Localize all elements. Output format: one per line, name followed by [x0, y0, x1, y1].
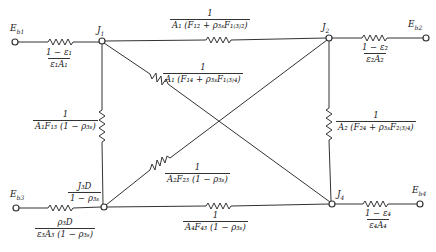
node-j4 — [329, 201, 335, 207]
resistor-j2-j4 — [326, 108, 332, 140]
resistance-eb3-j3-top: J₃D 1 − ρ₃ₛ — [68, 182, 101, 202]
node-eb2 — [423, 35, 429, 41]
resistor-j2-eb2 — [362, 35, 387, 41]
resistance-j2-eb2: 1 − ε₂ ε₂A₂ — [360, 43, 390, 63]
resistance-j3-j4: 1 A₄F₄₃ (1 − ρ₃ₛ) — [183, 211, 248, 231]
label-eb3: Eb3 — [10, 190, 24, 201]
resistance-j4-eb4: 1 − ε₄ ε₄A₄ — [363, 209, 393, 229]
resistor-j1-j2 — [206, 37, 231, 43]
label-eb2: Eb2 — [408, 20, 422, 31]
resistance-eb3-j3-bottom: ρ₃D ε₃A₃ (1 − ρ₃ₛ) — [35, 218, 95, 238]
node-eb1 — [12, 39, 18, 45]
node-j3 — [101, 204, 107, 210]
resistor-j1-j3 — [99, 110, 105, 142]
resistance-eb1-j1: 1 − ε₁ ε₁A₁ — [44, 48, 74, 68]
label-j2: J2 — [322, 23, 329, 34]
resistance-j1-j2: 1 A₁ (F₁₂ + ρ₃ₛF₁₍₃₎₂) — [170, 9, 250, 29]
resistance-j2-j4: 1 A₂ (F₂₄ + ρ₃ₛF₂₍₃₎₄) — [336, 111, 416, 131]
resistor-eb1-j1 — [48, 39, 73, 45]
label-eb1: Eb1 — [10, 24, 24, 35]
resistance-j1-j4: 1 A₁ (F₁₄ + ρ₃ₛF₁₍₃₎₄) — [163, 63, 243, 83]
node-eb3 — [13, 205, 19, 211]
resistor-eb3-j3 — [48, 205, 73, 211]
resistance-j1-j3: 1 A₁F₁₃ (1 − ρ₃ₛ) — [33, 110, 98, 130]
node-eb4 — [417, 201, 423, 207]
label-j4: J4 — [337, 190, 344, 201]
label-eb4: Eb4 — [412, 186, 426, 197]
node-j2 — [326, 35, 332, 41]
label-j1: J1 — [97, 26, 104, 37]
resistor-j4-eb4 — [363, 201, 388, 207]
resistance-j2-j3: 1 A₂F₂₃ (1 − ρ₃ₛ) — [165, 163, 230, 183]
node-j1 — [99, 38, 105, 44]
resistor-j3-j4 — [206, 203, 231, 209]
